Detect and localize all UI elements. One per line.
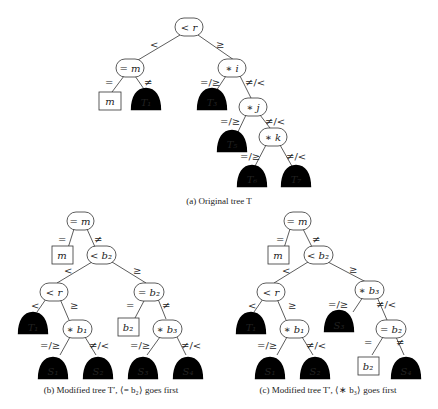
node-eq-b2: = b₂ (134, 283, 164, 301)
edge (138, 35, 180, 60)
edge (277, 337, 287, 355)
tree-c: = ≠ < ≥ < ≥ =/≥ ≠/< =/≥ ≠/< = ≠ = m < b₂… (236, 212, 421, 395)
edge-label: ≠ (94, 234, 102, 245)
edge-label: = (364, 337, 372, 348)
edge-label: =/≥ (40, 340, 60, 351)
subtree-s3: S₃ (324, 310, 354, 332)
edge-label: < (282, 265, 290, 276)
subtree-s1: S₁ (255, 357, 285, 379)
edge (353, 297, 363, 312)
node-star-b3: ∗ b₃ (355, 281, 384, 299)
edge-label: ≠ (396, 337, 404, 348)
svg-text:S₃: S₃ (334, 320, 345, 331)
edge-label: = (276, 234, 284, 245)
edge-label: ≥ (133, 265, 141, 276)
svg-text:b₂: b₂ (123, 322, 133, 333)
subtree-t3: T₃ (197, 88, 227, 110)
edge (112, 76, 124, 92)
svg-text:S₂: S₂ (310, 366, 321, 377)
edge-label: ≥ (216, 39, 224, 50)
subtree-s2: S₂ (83, 357, 113, 379)
edge-label: ≠/< (306, 340, 326, 351)
svg-text:< r: < r (46, 287, 64, 298)
edge (284, 229, 290, 248)
edge-label: = (105, 77, 113, 88)
subtree-t5: T₅ (217, 130, 247, 152)
decision-trees-figure: < ≥ = ≠ =/≥ ≠/< =/≥ ≠/< =/≥ ≠/< < r = m … (0, 0, 438, 409)
node-lt-r: < r (175, 18, 203, 36)
subtree-t6: T₆ (237, 165, 267, 187)
svg-text:S₄: S₄ (401, 366, 412, 377)
edge-label: ≥ (349, 264, 357, 275)
subtree-t7: T₇ (281, 165, 311, 187)
svg-text:< r: < r (263, 287, 281, 298)
edge-label: ≠/< (265, 116, 285, 127)
edge-label: < (31, 300, 39, 311)
edge-label: ≠ (162, 300, 170, 311)
edge (277, 299, 286, 320)
node-star-k: ∗ k (259, 128, 287, 146)
edge-label: < (248, 300, 256, 311)
edge (60, 337, 70, 355)
node-star-b3: ∗ b₃ (153, 320, 182, 338)
svg-text:= m: = m (119, 63, 140, 74)
svg-text:T₆: T₆ (247, 174, 258, 185)
leaf-m: m (52, 246, 73, 264)
edge-label: =/≥ (257, 340, 277, 351)
svg-text:= b₂: = b₂ (138, 287, 160, 298)
svg-text:< b₂: < b₂ (90, 250, 112, 261)
node-lt-b2: < b₂ (87, 246, 116, 264)
subtree-t1: T₁ (131, 88, 161, 110)
edge (274, 262, 308, 283)
edge (303, 229, 312, 247)
node-lt-r: < r (257, 283, 285, 301)
subtree-s1: S₁ (38, 357, 68, 379)
svg-text:S₃: S₃ (138, 366, 149, 377)
caption-b: (b) Modified tree T′, ⟨= b₂⟩ goes first (44, 385, 179, 395)
subtree-s4: S₄ (391, 357, 421, 379)
svg-text:T₁: T₁ (246, 322, 257, 333)
edge-label: < (150, 39, 158, 50)
tree-b: = ≠ < ≥ < ≥ = ≠ =/≥ ≠/< =/≥ ≠/< = m < b₂… (18, 212, 203, 395)
svg-text:∗ k: ∗ k (265, 132, 281, 143)
subtree-s3: S₃ (128, 357, 158, 379)
node-star-j: ∗ j (239, 98, 267, 116)
node-eq-m: = m (116, 59, 144, 77)
svg-text:m: m (57, 250, 66, 261)
node-eq-b2: = b₂ (376, 320, 406, 338)
subtree-s2: S₂ (300, 357, 330, 379)
edge (57, 262, 92, 283)
edge-label: = (58, 234, 66, 245)
edge-label: ≠/< (376, 299, 396, 310)
svg-text:m: m (273, 250, 282, 261)
svg-text:T₁: T₁ (28, 322, 39, 333)
subtree-t1: T₁ (18, 312, 48, 334)
svg-text:T₁: T₁ (141, 97, 152, 108)
edge-label: < (64, 265, 72, 276)
svg-text:= b₂: = b₂ (380, 324, 402, 335)
svg-text:T₅: T₅ (227, 139, 238, 150)
node-star-b1: ∗ b₁ (280, 320, 309, 338)
edge-label: ≠/< (181, 340, 201, 351)
edge-label: =/≥ (240, 151, 260, 162)
edge (328, 262, 366, 282)
svg-text:∗ j: ∗ j (246, 102, 259, 113)
node-eq-m: = m (67, 212, 94, 230)
node-lt-b2: < b₂ (304, 246, 333, 264)
svg-text:< b₂: < b₂ (307, 250, 329, 261)
edge (372, 337, 383, 355)
svg-text:S₄: S₄ (183, 366, 194, 377)
caption-c: (c) Modified tree T′, ⟨∗ b₃⟩ goes first (260, 385, 397, 395)
node-lt-r: < r (40, 283, 68, 301)
leaf-m: m (99, 92, 121, 110)
edge-label: ≠/< (89, 340, 109, 351)
svg-text:S₂: S₂ (93, 366, 104, 377)
edge-label: ≥ (288, 300, 296, 311)
edge-label: ≠/< (286, 151, 306, 162)
svg-text:b₂: b₂ (363, 361, 373, 372)
edge-label: =/≥ (130, 340, 150, 351)
edge-label: =/≥ (220, 116, 240, 127)
edge-label: =/≥ (200, 77, 220, 88)
leaf-b2: b₂ (358, 357, 379, 375)
svg-text:∗ b₃: ∗ b₃ (359, 285, 379, 296)
